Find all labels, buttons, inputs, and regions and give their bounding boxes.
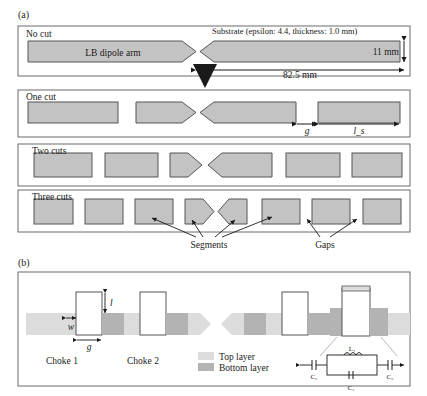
width-label: 11 mm <box>373 47 400 57</box>
row-two-cuts: Two cuts <box>18 144 410 186</box>
choke1-label: Choke 1 <box>46 356 78 366</box>
panel-b-label: (b) <box>18 257 30 269</box>
bottom-layer-strip <box>102 313 124 335</box>
top-layer-strip <box>388 313 410 335</box>
circuit-label-l1: L₁ <box>349 345 356 353</box>
metal-segment <box>136 102 196 123</box>
metal-segment <box>352 153 402 177</box>
metal-segment <box>200 41 400 62</box>
row-label-three-cuts: Three cuts <box>32 192 72 202</box>
metal-segment <box>286 153 340 177</box>
substrate-note: Substrate (epsilon: 4.4, thickness: 1.0 … <box>212 26 358 36</box>
choke-cap-strip <box>342 286 370 291</box>
metal-segment <box>318 102 400 123</box>
metal-segment <box>363 199 401 224</box>
panel-a-label: (a) <box>18 9 29 21</box>
arm-label: LB dipole arm <box>85 48 141 58</box>
metal-segment <box>34 199 73 224</box>
choke-stub <box>140 292 166 335</box>
metal-segment <box>85 199 123 224</box>
metal-segment <box>262 199 300 224</box>
length-label: 82.5 mm <box>283 70 317 80</box>
row-label-one-cut: One cut <box>26 92 56 102</box>
circuit-label-c1: C₁ <box>347 384 354 392</box>
row-one-cut: One cut g l_s <box>18 90 410 137</box>
metal-segment <box>200 102 296 123</box>
circuit-label-c2-left: C₂ <box>310 373 318 381</box>
segment-length-symbol: l_s <box>353 126 364 136</box>
figure-canvas: (a) No cut LB dipole arm Substrate (epsi… <box>0 0 427 396</box>
row-three-cuts: Three cuts <box>18 190 410 232</box>
metal-segment <box>34 153 92 177</box>
choke-stub-highlight <box>342 288 370 336</box>
bottom-layer-strip <box>166 313 188 335</box>
bottom-layer-strip <box>308 313 330 335</box>
bottom-layer-strip <box>244 313 266 335</box>
dim-label-l: l <box>110 298 113 308</box>
metal-segment <box>208 153 272 177</box>
dim-label-g: g <box>87 342 92 352</box>
row-no-cut: No cut LB dipole arm Substrate (epsilon:… <box>18 26 410 80</box>
choke2-label: Choke 2 <box>127 356 159 366</box>
top-layer-strip <box>26 313 84 335</box>
callout-segments-label: Segments <box>191 240 228 250</box>
metal-segment <box>105 153 158 177</box>
overlap-pad <box>370 308 388 336</box>
legend-swatch-top-layer <box>198 352 214 360</box>
legend-label-top-layer: Top layer <box>219 352 256 362</box>
dim-label-w: w <box>68 322 75 332</box>
metal-segment <box>312 199 350 224</box>
figure-root: (a) No cut LB dipole arm Substrate (epsi… <box>0 0 427 396</box>
circuit-label-c2-right: C₂ <box>386 373 394 381</box>
legend-swatch-bottom-layer <box>198 363 214 371</box>
choke-stub <box>282 292 308 335</box>
metal-segment <box>135 199 173 224</box>
row-label-two-cuts: Two cuts <box>32 146 67 156</box>
callout-gaps-label: Gaps <box>315 240 335 250</box>
legend-label-bottom-layer: Bottom layer <box>219 363 270 373</box>
gap-symbol: g <box>305 126 310 136</box>
row-label-no-cut: No cut <box>26 29 52 39</box>
metal-segment <box>28 102 118 123</box>
choke-stub <box>76 292 102 335</box>
